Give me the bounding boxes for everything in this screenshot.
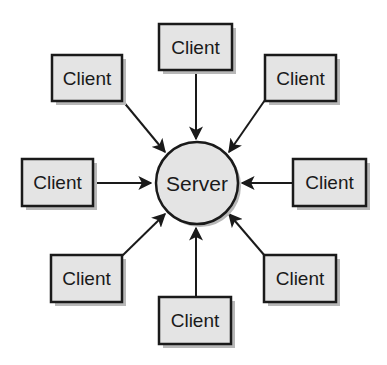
- client-node-right: Client: [293, 159, 370, 210]
- client-label: Client: [171, 310, 220, 331]
- client-label: Client: [33, 172, 82, 193]
- arrow-bottom-left-to-server: [122, 214, 165, 256]
- server-label: Server: [166, 172, 228, 195]
- server-node: Server: [156, 142, 241, 227]
- arrow-bottom-right-to-server: [229, 214, 265, 256]
- client-label: Client: [171, 37, 220, 58]
- client-node-bottom-left: Client: [51, 255, 126, 306]
- client-node-top-right: Client: [265, 55, 340, 105]
- client-node-bottom: Client: [159, 297, 235, 348]
- client-node-top: Client: [159, 24, 236, 74]
- client-label: Client: [305, 172, 354, 193]
- client-label: Client: [62, 268, 111, 289]
- arrow-top-left-to-server: [122, 100, 165, 152]
- client-node-left: Client: [22, 159, 97, 210]
- client-label: Client: [276, 268, 325, 289]
- client-node-top-left: Client: [52, 55, 126, 105]
- client-server-diagram: Server Client Client Client Client Clien…: [0, 0, 387, 365]
- arrow-top-right-to-server: [229, 100, 265, 152]
- client-node-bottom-right: Client: [264, 255, 340, 306]
- client-label: Client: [63, 68, 112, 89]
- client-label: Client: [276, 68, 325, 89]
